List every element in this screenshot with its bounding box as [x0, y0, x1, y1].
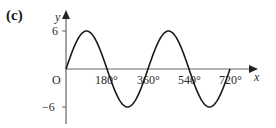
x-tick-label-540: 540° — [178, 73, 201, 87]
y-axis-label: y — [54, 10, 61, 24]
x-tick-label-720: 720° — [219, 73, 242, 87]
x-tick-label-180: 180° — [95, 73, 118, 87]
x-tick-label-360: 360° — [137, 73, 160, 87]
sine-chart: y x O 6 −6 180° 360° 540° 720° — [0, 0, 276, 128]
origin-label: O — [52, 73, 61, 87]
y-tick-label-6: 6 — [52, 24, 58, 38]
x-axis-label: x — [253, 70, 260, 84]
y-axis-arrow-icon — [62, 10, 70, 19]
y-tick-label-neg6: −6 — [42, 100, 55, 114]
